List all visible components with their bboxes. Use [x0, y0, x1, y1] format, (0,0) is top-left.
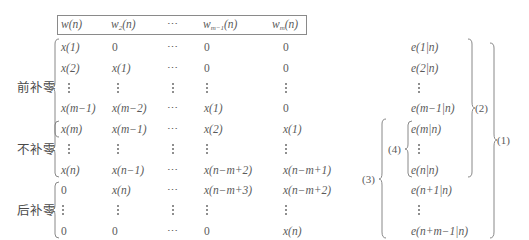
- brace-2: [467, 38, 475, 178]
- cell-r4-c1: x(m−1): [112, 122, 147, 136]
- cell-r0-c1: 0: [112, 40, 118, 54]
- cell-r0-c4: 0: [283, 40, 289, 54]
- vdots-r2-c2: [172, 83, 174, 95]
- vdots-r2-c0: [68, 83, 70, 95]
- header-box: [57, 15, 307, 35]
- cell-r1-c0: x(2): [61, 61, 80, 75]
- header-wm-1: wm−1(n): [203, 17, 237, 35]
- vdots-error-b: [418, 144, 420, 156]
- cell-r1-c3: 0: [204, 61, 210, 75]
- vdots-error-c: [418, 205, 420, 217]
- error-m-1: e(m−1|n): [411, 101, 455, 115]
- cell-r3-c2: ⋯: [167, 101, 179, 115]
- vdots-r8-c0: [62, 205, 64, 217]
- brace-label-1: (1): [497, 133, 510, 147]
- group-label-no-padding: 不补零: [17, 143, 56, 157]
- brace-1: [489, 42, 497, 240]
- error-2: e(2|n): [411, 61, 438, 75]
- vdots-r5-c4: [285, 144, 287, 156]
- error-n+1: e(n+1|n): [411, 183, 452, 197]
- cell-r3-c3: x(1): [204, 101, 223, 115]
- cell-r7-c0: 0: [61, 183, 67, 197]
- vdots-r5-c0: [68, 144, 70, 156]
- cell-r3-c0: x(m−1): [61, 101, 96, 115]
- error-n+m-1: e(n+m−1|n): [411, 224, 468, 238]
- error-n: e(n|n): [411, 163, 438, 177]
- cell-r4-c0: x(m): [61, 122, 82, 136]
- cell-r7-c1: x(n): [112, 183, 131, 197]
- vdots-r2-c3: [206, 83, 208, 95]
- vdots-error-a: [418, 83, 420, 95]
- cell-r6-c0: x(n): [61, 163, 80, 177]
- header-w2: w2(n): [111, 17, 136, 35]
- cell-r9-c2: ⋯: [167, 224, 179, 238]
- vdots-r2-c1: [117, 83, 119, 95]
- cell-r7-c2: ⋯: [167, 183, 179, 197]
- vdots-r2-c4: [285, 83, 287, 95]
- cell-r4-c3: x(2): [204, 122, 223, 136]
- cell-r9-c1: 0: [112, 224, 118, 238]
- cell-r6-c3: x(n−m+2): [204, 163, 252, 177]
- header-ellipsis: ⋯: [167, 17, 179, 31]
- brace-no-padding: [53, 120, 61, 178]
- cell-r7-c4: x(n−m+2): [283, 183, 331, 197]
- vdots-r8-c2: [172, 205, 174, 217]
- cell-r9-c4: x(n): [283, 224, 302, 238]
- brace-label-4: (4): [388, 142, 401, 156]
- cell-r3-c4: 0: [283, 101, 289, 115]
- cell-r7-c3: x(n−m+3): [204, 183, 252, 197]
- brace-label-3: (3): [362, 172, 375, 186]
- brace-post-padding: [53, 181, 61, 239]
- brace-3: [380, 118, 388, 240]
- cell-r0-c3: 0: [204, 40, 210, 54]
- cell-r6-c1: x(n−1): [112, 163, 144, 177]
- cell-r1-c2: ⋯: [167, 61, 179, 75]
- header-w: w(n): [61, 17, 82, 31]
- cell-r1-c4: 0: [283, 61, 289, 75]
- brace-4: [406, 120, 414, 178]
- cell-r1-c1: x(1): [112, 61, 131, 75]
- brace-label-2: (2): [475, 101, 488, 115]
- cell-r4-c4: x(1): [283, 122, 302, 136]
- group-label-post-padding: 后补零: [17, 204, 56, 218]
- cell-r3-c1: x(m−2): [112, 101, 147, 115]
- cell-r0-c2: ⋯: [167, 40, 179, 54]
- cell-r4-c2: ⋯: [167, 122, 179, 136]
- vdots-r8-c3: [206, 205, 208, 217]
- group-label-pre-padding: 前补零: [17, 81, 56, 95]
- cell-r6-c2: ⋯: [167, 163, 179, 177]
- vdots-r5-c1: [117, 144, 119, 156]
- vdots-r5-c3: [206, 144, 208, 156]
- vdots-r8-c4: [285, 205, 287, 217]
- vdots-r8-c1: [117, 205, 119, 217]
- error-m: e(m|n): [411, 122, 441, 136]
- vdots-r5-c2: [172, 144, 174, 156]
- cell-r9-c3: 0: [204, 224, 210, 238]
- cell-r6-c4: x(n−m+1): [283, 163, 331, 177]
- cell-r9-c0: 0: [61, 224, 67, 238]
- header-wm: wm(n): [272, 17, 298, 35]
- cell-r0-c0: x(1): [61, 40, 80, 54]
- error-1: e(1|n): [411, 40, 438, 54]
